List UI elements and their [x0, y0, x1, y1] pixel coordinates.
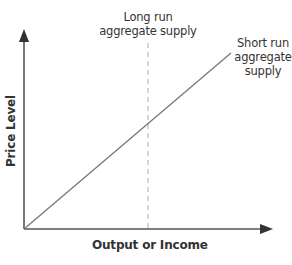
y-axis-label: Price Level	[4, 97, 18, 167]
x-axis-label: Output or Income	[92, 238, 202, 252]
y-axis-arrow-icon	[19, 29, 29, 42]
short-run-aggregate-supply-label: Short run aggregate supply	[232, 36, 292, 78]
sras-label-line3: supply	[232, 64, 292, 78]
short-run-aggregate-supply-line	[24, 53, 231, 229]
sras-label-line1: Short run	[232, 36, 292, 50]
lras-label-line2: aggregate supply	[98, 24, 198, 38]
long-run-aggregate-supply-label: Long run aggregate supply	[98, 10, 198, 38]
x-axis-arrow-icon	[260, 224, 273, 234]
sras-label-line2: aggregate	[232, 50, 292, 64]
lras-label-line1: Long run	[98, 10, 198, 24]
